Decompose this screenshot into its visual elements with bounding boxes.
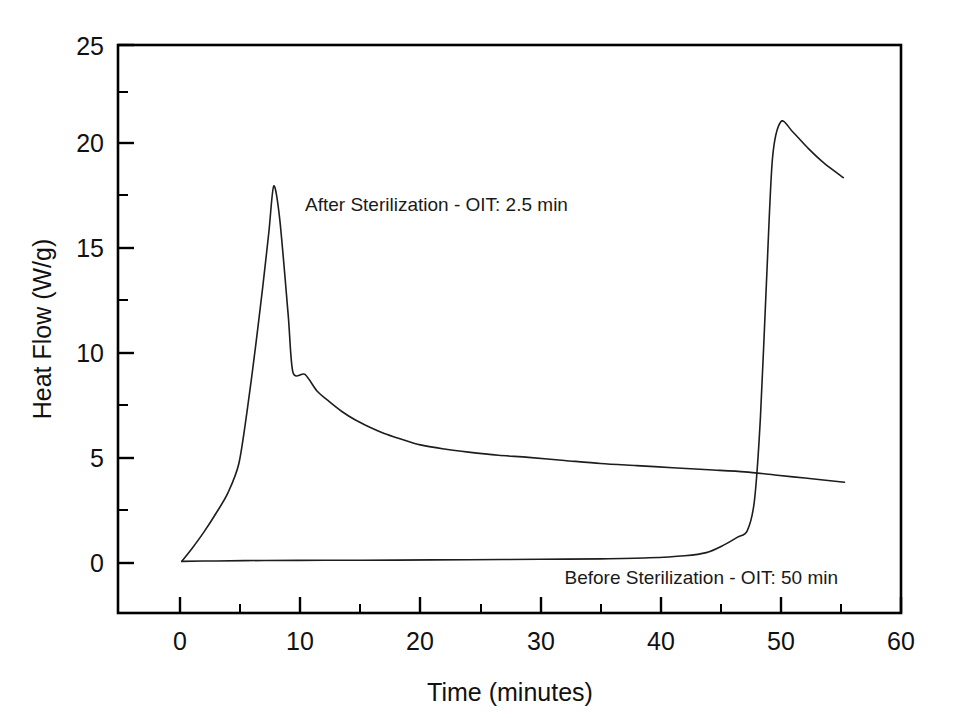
x-axis-title: Time (minutes) bbox=[427, 678, 593, 706]
x-tick-label-30: 30 bbox=[527, 627, 555, 655]
annotation-before-sterilization: Before Sterilization - OIT: 50 min bbox=[565, 567, 839, 588]
dsc-oit-line-chart: 0 10 20 30 40 50 60 0 5 10 15 20 25 Heat… bbox=[0, 0, 957, 718]
annotation-after-sterilization: After Sterilization - OIT: 2.5 min bbox=[305, 194, 568, 215]
series-line-after-sterilization bbox=[182, 186, 845, 562]
y-tick-label-20: 20 bbox=[76, 129, 104, 157]
y-tick-label-25: 25 bbox=[76, 32, 104, 60]
x-tick-label-50: 50 bbox=[767, 627, 795, 655]
y-tick-label-10: 10 bbox=[76, 339, 104, 367]
x-tick-label-0: 0 bbox=[173, 627, 187, 655]
y-tick-label-15: 15 bbox=[76, 234, 104, 262]
chart-figure: 0 10 20 30 40 50 60 0 5 10 15 20 25 Heat… bbox=[0, 0, 957, 718]
y-tick-label-5: 5 bbox=[90, 444, 104, 472]
series-line-before-sterilization bbox=[182, 121, 844, 561]
x-tick-label-60: 60 bbox=[887, 627, 915, 655]
y-tick-label-0: 0 bbox=[90, 549, 104, 577]
x-tick-label-10: 10 bbox=[286, 627, 314, 655]
y-axis-minor-ticks bbox=[118, 92, 128, 510]
y-axis-major-ticks bbox=[118, 45, 134, 563]
x-tick-label-20: 20 bbox=[406, 627, 434, 655]
x-axis-major-ticks bbox=[180, 597, 901, 613]
x-tick-label-40: 40 bbox=[647, 627, 675, 655]
y-axis-title: Heat Flow (W/g) bbox=[28, 239, 56, 420]
plot-frame bbox=[118, 45, 901, 613]
